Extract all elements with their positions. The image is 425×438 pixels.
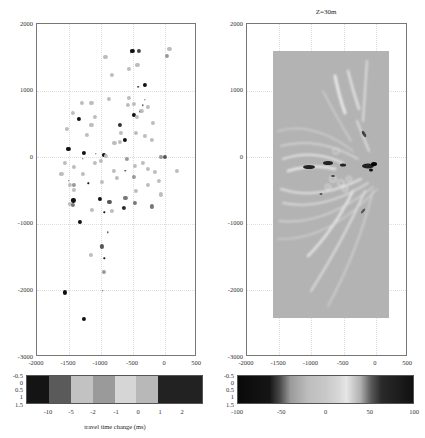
colorbar-x-tick: -50 — [266, 408, 296, 415]
scatter-point — [119, 131, 123, 135]
scatter-point — [133, 164, 137, 168]
colorbar-y-tick: 1.5 — [204, 401, 234, 408]
scatter-marker — [103, 258, 104, 259]
scatter-point — [149, 204, 153, 208]
scatter-point — [117, 122, 121, 126]
scatter-point — [146, 104, 150, 108]
scatter-point — [102, 270, 106, 274]
x-tick-label: -1500 — [53, 359, 83, 366]
scatter-point — [71, 203, 75, 207]
colorbar-x-tick: 100 — [399, 408, 425, 415]
scatter-point — [175, 168, 179, 172]
x-tick-label: 0 — [149, 359, 179, 366]
scatter-point — [71, 111, 75, 115]
colorbar-segment — [49, 376, 71, 403]
scatter-point — [107, 97, 111, 101]
scatter-point — [133, 188, 137, 192]
scatter-point — [100, 180, 104, 184]
left-scatter-plot — [36, 23, 196, 356]
scatter-point — [146, 167, 150, 171]
y-tick-label: 2000 — [3, 20, 33, 27]
y-tick-label: 1000 — [213, 86, 243, 93]
scatter-point — [142, 134, 146, 138]
x-tick-label: -500 — [117, 359, 147, 366]
scatter-marker — [102, 290, 103, 291]
x-tick-label: -1500 — [263, 359, 293, 366]
scatter-marker — [107, 232, 108, 233]
scatter-point — [125, 157, 129, 161]
scatter-point — [89, 122, 93, 126]
scatter-point — [82, 317, 86, 321]
scatter-point — [72, 164, 76, 168]
colorbar-segment — [71, 376, 93, 403]
y-tick-label: -1000 — [213, 219, 243, 226]
y-tick-label: 1000 — [3, 86, 33, 93]
scatter-point — [82, 150, 86, 154]
colorbar-segment — [158, 376, 180, 403]
y-tick-label: -2000 — [213, 286, 243, 293]
scatter-point — [146, 183, 150, 187]
scatter-point — [135, 63, 139, 67]
y-tick-label: 0 — [3, 153, 33, 160]
colorbar-y-tick: 0.5 — [204, 386, 234, 393]
scatter-point — [100, 244, 104, 248]
scatter-point — [115, 176, 119, 180]
scatter-point — [78, 220, 82, 224]
scatter-point — [126, 103, 130, 107]
scatter-point — [72, 188, 76, 192]
scatter-point — [85, 132, 89, 136]
colorbar-segment — [180, 376, 202, 403]
scatter-point — [126, 96, 130, 100]
scatter-point — [123, 196, 127, 200]
scatter-point — [93, 115, 97, 119]
colorbar-x-tick: -100 — [222, 408, 252, 415]
scatter-point — [153, 170, 157, 174]
scatter-point — [133, 130, 137, 134]
scatter-point — [149, 138, 153, 142]
colorbar-label: travel time change (ms) — [60, 423, 170, 430]
scatter-point — [93, 161, 97, 165]
colorbar-y-tick: 0.5 — [0, 386, 23, 393]
x-tick-label: 500 — [181, 359, 211, 366]
scatter-point — [89, 253, 93, 257]
scatter-marker — [142, 105, 143, 106]
heatmap-image — [273, 51, 389, 318]
scatter-point — [132, 102, 136, 106]
scatter-point — [98, 197, 102, 201]
colorbar-x-tick: 50 — [355, 408, 385, 415]
scatter-marker — [68, 180, 69, 181]
left-colorbar — [26, 375, 203, 404]
y-tick-label: -2000 — [3, 286, 33, 293]
scatter-point — [123, 138, 127, 142]
scatter-marker — [103, 212, 104, 213]
scatter-point — [157, 178, 161, 182]
scatter-point — [110, 209, 114, 213]
x-tick-label: -1000 — [295, 359, 325, 366]
scatter-point — [65, 126, 69, 130]
scatter-marker — [144, 99, 145, 100]
scatter-point — [163, 155, 167, 159]
scatter-point — [72, 182, 76, 186]
colorbar-y-tick: 1.5 — [0, 401, 23, 408]
scatter-point — [165, 54, 169, 58]
scatter-point — [81, 172, 85, 176]
x-tick-label: -500 — [328, 359, 358, 366]
y-tick-label: -1000 — [3, 219, 33, 226]
x-tick-label: -2000 — [231, 359, 261, 366]
x-tick-label: -1000 — [85, 359, 115, 366]
colorbar-y-tick: 0 — [204, 379, 234, 386]
scatter-point — [99, 159, 103, 163]
colorbar-y-tick: -0.5 — [0, 372, 23, 379]
scatter-point — [103, 55, 107, 59]
scatter-point — [62, 161, 66, 165]
right-colorbar — [237, 375, 414, 404]
scatter-points — [37, 24, 195, 355]
scatter-point — [133, 201, 137, 205]
colorbar-y-tick: 1 — [204, 393, 234, 400]
y-tick-label: 0 — [213, 153, 243, 160]
colorbar-x-tick: 0 — [311, 408, 341, 415]
right-plot-title: Z=30m — [296, 8, 356, 16]
scatter-point — [66, 146, 70, 150]
scatter-point — [63, 290, 67, 294]
scatter-point — [141, 160, 145, 164]
